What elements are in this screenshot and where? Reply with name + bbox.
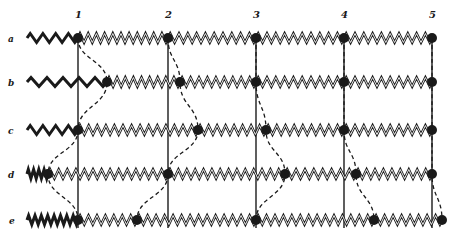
spring-highlight-b-3 <box>256 78 344 87</box>
column-label-3: 3 <box>253 10 260 20</box>
lead-spring-a <box>27 34 78 43</box>
spring-highlight-a-4 <box>344 34 432 43</box>
spring-diagram-svg <box>0 0 455 244</box>
column-label-5: 5 <box>429 10 436 20</box>
column-label-1: 1 <box>75 10 82 20</box>
row-label-e: e <box>9 216 15 226</box>
spring-highlight-b-4 <box>344 78 432 87</box>
column-label-2: 2 <box>165 10 172 20</box>
row-label-c: c <box>8 126 13 136</box>
lead-spring-c <box>27 126 78 135</box>
wave-diagram <box>0 0 455 244</box>
spring-highlight-d-3 <box>285 170 356 179</box>
row-label-b: b <box>8 78 14 88</box>
row-label-a: a <box>8 34 14 44</box>
lead-spring-e <box>27 216 78 225</box>
spring-highlight-a-3 <box>256 34 344 43</box>
column-label-4: 4 <box>341 10 348 20</box>
row-label-d: d <box>8 170 14 180</box>
spring-highlight-a-2 <box>168 34 256 43</box>
spring-highlight-c-4 <box>344 126 432 135</box>
lead-spring-b <box>27 78 107 87</box>
